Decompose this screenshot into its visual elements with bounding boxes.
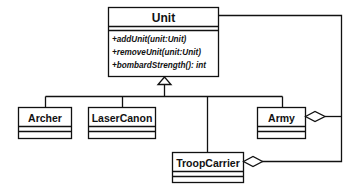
aggregation-line-unit [219,16,342,162]
unit-operation-remove: +removeUnit(unit:Unit) [112,48,201,57]
aggregation-diamond-army-icon [306,112,326,122]
army-class-name: Army [268,112,295,124]
unit-operation-bombard: +bombardStrength(): int [112,61,206,70]
lasercanon-class-name: LaserCanon [92,112,153,124]
archer-class-name: Archer [28,112,62,124]
generalization-triangle-icon [158,77,171,85]
aggregation-diamond-troopcarrier-icon [244,157,263,167]
unit-class-name: Unit [152,11,175,25]
unit-operation-add: +addUnit(unit:Unit) [112,35,187,44]
uml-diagram: Unit +addUnit(unit:Unit) +removeUnit(uni… [0,0,363,188]
troopcarrier-class-name: TroopCarrier [176,157,240,169]
